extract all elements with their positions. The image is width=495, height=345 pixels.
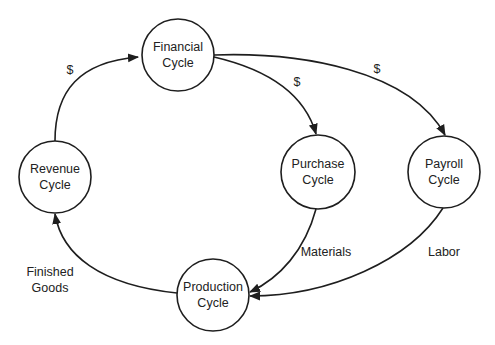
- edge-label-payroll-to-production: Labor: [428, 245, 460, 259]
- node-label-line1: Revenue: [30, 162, 80, 176]
- cycle-diagram: Financial Cycle Revenue Cycle Purchase C…: [0, 0, 495, 345]
- node-label-line1: Purchase: [292, 157, 345, 171]
- edge-label-production-to-revenue-line2: Goods: [32, 281, 69, 295]
- node-production-cycle: Production Cycle: [177, 259, 249, 331]
- node-financial-cycle: Financial Cycle: [142, 19, 214, 91]
- edge-label-production-to-revenue-line1: Finished: [26, 265, 73, 279]
- edge-label-purchase-to-production: Materials: [301, 245, 352, 259]
- edge-financial-to-purchase: [214, 57, 316, 134]
- edge-label-revenue-to-financial: $: [67, 63, 74, 77]
- node-label-line2: Cycle: [302, 173, 333, 187]
- node-label-line1: Production: [183, 280, 243, 294]
- edge-label-financial-to-purchase: $: [294, 75, 301, 89]
- node-payroll-cycle: Payroll Cycle: [408, 136, 480, 208]
- edge-financial-to-payroll: [214, 55, 445, 135]
- node-purchase-cycle: Purchase Cycle: [281, 135, 355, 209]
- node-label-line2: Cycle: [197, 296, 228, 310]
- node-label-line2: Cycle: [39, 178, 70, 192]
- edge-production-to-revenue: [55, 214, 177, 293]
- node-revenue-cycle: Revenue Cycle: [19, 141, 91, 213]
- node-label-line2: Cycle: [428, 173, 459, 187]
- node-label-line1: Financial: [153, 40, 203, 54]
- node-label-line2: Cycle: [162, 56, 193, 70]
- edge-label-financial-to-payroll: $: [374, 62, 381, 76]
- node-label-line1: Payroll: [425, 157, 463, 171]
